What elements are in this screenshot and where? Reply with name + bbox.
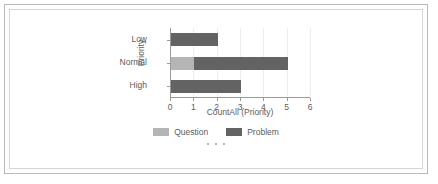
bar-segment-question[interactable] (171, 57, 194, 70)
overflow-dot (207, 143, 209, 145)
category-tick (167, 40, 170, 41)
category-tick (167, 63, 170, 64)
x-tick-mark (193, 98, 194, 101)
overflow-dot (215, 143, 217, 145)
legend-item-question[interactable]: Question (153, 127, 208, 137)
bar-normal[interactable] (171, 57, 288, 70)
plot-area: 0123456 (170, 28, 310, 98)
overflow-dot (223, 143, 225, 145)
x-tick-mark (310, 98, 311, 101)
bar-segment-problem[interactable] (194, 57, 287, 70)
bar-segment-problem[interactable] (171, 33, 218, 46)
category-label-normal: Normal (120, 57, 147, 67)
gridline (310, 28, 311, 98)
x-tick-mark (240, 98, 241, 101)
category-label-low: Low (131, 34, 147, 44)
chart-legend: QuestionProblem (10, 127, 422, 137)
category-tick (167, 86, 170, 87)
x-tick-mark (287, 98, 288, 101)
bar-high[interactable] (171, 80, 241, 93)
legend-label: Problem (247, 127, 279, 137)
legend-item-problem[interactable]: Problem (226, 127, 279, 137)
bar-segment-problem[interactable] (171, 80, 241, 93)
x-tick-mark (263, 98, 264, 101)
x-tick-mark (217, 98, 218, 101)
legend-swatch-question (153, 128, 169, 136)
legend-label: Question (174, 127, 208, 137)
x-tick-mark (170, 98, 171, 101)
chart-frame-outer: Priority LowNormalHigh 0123456 CountAll … (4, 4, 428, 174)
bar-low[interactable] (171, 33, 218, 46)
category-label-high: High (130, 80, 147, 90)
bar-chart: Priority LowNormalHigh 0123456 CountAll … (10, 10, 422, 168)
overflow-dots (10, 143, 422, 145)
x-axis-title: CountAll (Priority) (170, 107, 310, 117)
legend-swatch-problem (226, 128, 242, 136)
chart-frame-inner: Priority LowNormalHigh 0123456 CountAll … (9, 9, 423, 169)
